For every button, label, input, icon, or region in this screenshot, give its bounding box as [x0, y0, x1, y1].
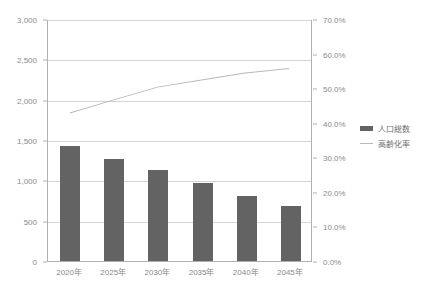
- y-axis-left-tick: 1,000: [17, 177, 37, 186]
- y-axis-right-tick-mark: [313, 158, 317, 159]
- legend-item-label: 高齢化率: [378, 138, 410, 149]
- y-axis-right-tick: 40.0%: [323, 119, 346, 128]
- x-axis-tick: 2025年: [100, 266, 126, 277]
- y-axis-right-tick-mark: [313, 192, 317, 193]
- y-axis-left-tick: 3,000: [17, 16, 37, 25]
- y-axis-right-tick-mark: [313, 54, 317, 55]
- y-axis-right-tick-mark: [313, 123, 317, 124]
- y-axis-right-tick: 50.0%: [323, 85, 346, 94]
- legend-item-population: 人口総数: [360, 122, 433, 135]
- y-axis-right-tick-mark: [313, 262, 317, 263]
- plot-area: [47, 20, 312, 262]
- y-axis-left-tick: 500: [24, 217, 37, 226]
- x-axis-tick: 2040年: [233, 266, 259, 277]
- y-axis-left-tick: 2,000: [17, 96, 37, 105]
- x-axis-tick: 2030年: [145, 266, 171, 277]
- x-axis-tick: 2045年: [277, 266, 303, 277]
- y-axis-right-tick-mark: [313, 227, 317, 228]
- y-axis-right-tick: 60.0%: [323, 50, 346, 59]
- y-axis-left: 05001,0001,5002,0002,5003,000: [0, 20, 43, 262]
- y-axis-right-tick-mark: [313, 20, 317, 21]
- x-axis-labels: 2020年2025年2030年2035年2040年2045年: [47, 264, 312, 284]
- y-axis-right-tick: 30.0%: [323, 154, 346, 163]
- y-axis-right-tick: 20.0%: [323, 188, 346, 197]
- legend-item-aging-rate: 高齢化率: [360, 137, 433, 150]
- x-axis-tick: 2020年: [56, 266, 82, 277]
- bar-swatch-icon: [360, 126, 373, 131]
- x-axis-tick: 2035年: [189, 266, 215, 277]
- y-axis-right: 0.0%10.0%20.0%30.0%40.0%50.0%60.0%70.0%: [313, 20, 361, 262]
- y-axis-left-tick: 2,500: [17, 56, 37, 65]
- line-series-aging-rate: [48, 20, 311, 261]
- y-axis-left-tick: 0: [33, 258, 37, 267]
- y-axis-right-tick: 70.0%: [323, 16, 346, 25]
- y-axis-left-tick: 1,500: [17, 137, 37, 146]
- y-axis-right-tick: 0.0%: [323, 258, 341, 267]
- legend: 人口総数 高齢化率: [360, 122, 433, 152]
- y-axis-right-tick: 10.0%: [323, 223, 346, 232]
- line-swatch-icon: [360, 143, 373, 144]
- legend-item-label: 人口総数: [378, 123, 410, 134]
- population-aging-rate-chart: 05001,0001,5002,0002,5003,000 0.0%10.0%2…: [0, 0, 433, 293]
- y-axis-right-tick-mark: [313, 89, 317, 90]
